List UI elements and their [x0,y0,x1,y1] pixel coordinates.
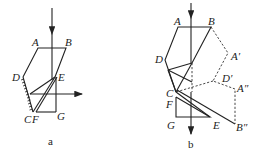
label-d: D [154,53,163,65]
prism-diagram: A B D E C F G a A B D C F G E [0,0,256,158]
label-a: A [173,15,181,27]
label-f: F [31,113,39,125]
label-a-double-prime: A″ [236,82,249,94]
edge-c-b2 [177,90,235,124]
label-e: E [57,71,65,83]
caption-a: a [48,135,53,147]
label-b: B [208,15,215,27]
label-d: D [11,71,20,83]
label-b-double-prime: B″ [236,121,248,133]
ray-e-to-mirror [30,77,55,94]
label-f: F [165,98,173,110]
label-b: B [65,36,72,48]
caption-b: b [188,138,194,150]
label-g: G [167,119,175,131]
figure-b: A B D C F G E A′ D′ A″ B″ b [154,3,249,150]
label-e: E [212,119,220,131]
label-c: C [24,113,32,125]
label-g: G [57,110,65,122]
figure-a: A B D E C F G a [11,8,82,147]
label-a: A [31,36,39,48]
label-a-prime: A′ [230,50,241,62]
edge-ce [176,92,210,117]
label-d-prime: D′ [221,72,233,84]
